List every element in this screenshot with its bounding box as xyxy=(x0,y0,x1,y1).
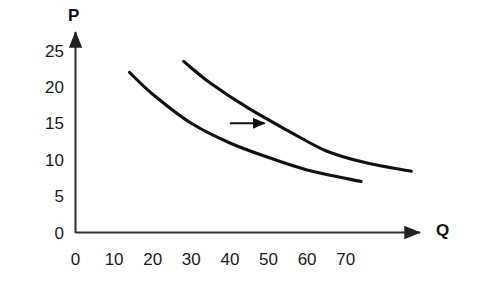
demand-curve-original xyxy=(130,72,362,181)
demand-curve-shifted xyxy=(184,61,412,171)
x-tick-label: 50 xyxy=(259,251,278,268)
y-axis-title: P xyxy=(68,7,79,24)
x-tick-label: 30 xyxy=(182,251,201,268)
y-tick-label: 10 xyxy=(30,151,64,168)
y-tick-label: 15 xyxy=(30,115,64,132)
y-tick-label: 0 xyxy=(30,224,64,241)
x-tick-label: 60 xyxy=(298,251,317,268)
chart-figure: P Q 0510152025 010203040506070 xyxy=(0,0,480,291)
x-tick-label: 20 xyxy=(143,251,162,268)
y-tick-label: 5 xyxy=(30,188,64,205)
x-tick-label: 70 xyxy=(336,251,355,268)
chart-plot-area xyxy=(0,0,480,291)
x-axis-title: Q xyxy=(436,222,449,239)
x-tick-label: 0 xyxy=(71,251,80,268)
y-tick-label: 25 xyxy=(30,42,64,59)
x-tick-label: 40 xyxy=(220,251,239,268)
y-tick-label: 20 xyxy=(30,78,64,95)
x-tick-label: 10 xyxy=(105,251,124,268)
